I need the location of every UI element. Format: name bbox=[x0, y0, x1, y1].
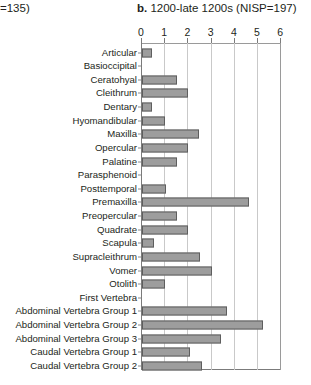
y-tick-mark bbox=[138, 352, 141, 353]
left-cropped-label: =135) bbox=[0, 2, 30, 14]
x-tick-mark bbox=[234, 38, 235, 43]
y-tick-mark bbox=[138, 256, 141, 257]
bar-row: Caudal Vertebra Group 2 bbox=[0, 356, 311, 375]
panel-title: b. 1200-late 1200s (NISP=197) bbox=[137, 2, 297, 14]
y-tick-mark bbox=[138, 188, 141, 189]
x-tick-mark bbox=[280, 38, 281, 43]
y-tick-mark bbox=[138, 325, 141, 326]
panel-title-text: 1200-late 1200s (NISP=197) bbox=[150, 2, 296, 14]
y-tick-mark bbox=[138, 216, 141, 217]
x-tick-mark bbox=[141, 38, 142, 43]
y-tick-mark bbox=[138, 202, 141, 203]
x-tick-label: 4 bbox=[224, 26, 244, 38]
y-tick-mark bbox=[138, 134, 141, 135]
category-label: Caudal Vertebra Group 2 bbox=[30, 361, 137, 371]
x-tick-label: 0 bbox=[131, 26, 151, 38]
x-tick-mark bbox=[187, 38, 188, 43]
y-tick-mark bbox=[138, 107, 141, 108]
y-tick-mark bbox=[138, 161, 141, 162]
y-tick-mark bbox=[138, 175, 141, 176]
x-axis: 0123456 bbox=[0, 26, 311, 42]
x-tick-mark bbox=[257, 38, 258, 43]
x-tick-label: 6 bbox=[270, 26, 290, 38]
x-tick-label: 2 bbox=[177, 26, 197, 38]
y-tick-mark bbox=[138, 297, 141, 298]
x-tick-label: 3 bbox=[201, 26, 221, 38]
bar bbox=[142, 361, 202, 370]
chart-page: =135) b. 1200-late 1200s (NISP=197) 0123… bbox=[0, 0, 311, 385]
y-tick-mark bbox=[138, 311, 141, 312]
bar-rows: ArticularBasioccipitalCeratohyalCleithru… bbox=[0, 43, 311, 370]
x-tick-mark bbox=[211, 38, 212, 43]
y-tick-mark bbox=[138, 79, 141, 80]
y-tick-mark bbox=[138, 229, 141, 230]
y-tick-mark bbox=[138, 66, 141, 67]
y-tick-mark bbox=[138, 147, 141, 148]
y-tick-mark bbox=[138, 284, 141, 285]
x-tick-mark bbox=[164, 38, 165, 43]
chart-header: =135) b. 1200-late 1200s (NISP=197) bbox=[0, 0, 311, 20]
y-tick-mark bbox=[138, 243, 141, 244]
y-tick-mark bbox=[138, 338, 141, 339]
y-tick-mark bbox=[138, 52, 141, 53]
y-tick-mark bbox=[138, 93, 141, 94]
y-tick-mark bbox=[138, 270, 141, 271]
x-tick-label: 5 bbox=[247, 26, 267, 38]
panel-letter: b. bbox=[137, 2, 147, 14]
x-tick-label: 1 bbox=[154, 26, 174, 38]
y-tick-mark bbox=[138, 365, 141, 366]
y-tick-mark bbox=[138, 120, 141, 121]
